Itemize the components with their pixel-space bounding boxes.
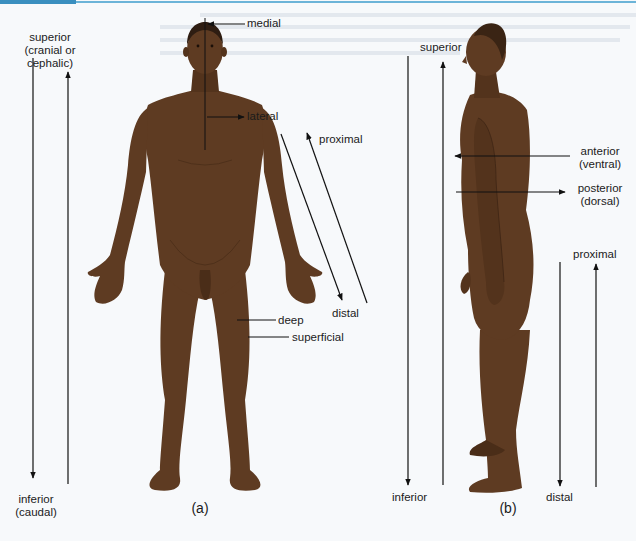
label-distal-b: distal (546, 491, 573, 504)
label-inferior-b: inferior (392, 491, 427, 504)
label-distal-a: distal (332, 307, 359, 320)
label-proximal-a: proximal (319, 133, 362, 146)
label-superior-a: superior (cranial or cephalic) (24, 31, 75, 70)
figure-b-lateral-body (460, 23, 533, 493)
label-posterior: posterior (dorsal) (578, 182, 623, 208)
caption-figure-a: (a) (191, 500, 208, 516)
label-proximal-b: proximal (573, 248, 616, 261)
label-medial: medial (247, 17, 281, 30)
label-lateral: lateral (247, 110, 278, 123)
label-inferior-a: inferior (caudal) (15, 493, 57, 519)
directional-terms-diagram (0, 0, 636, 541)
label-superior-b: superior (420, 41, 462, 54)
proximal-arrow-a (307, 133, 367, 303)
caption-figure-b: (b) (499, 500, 516, 516)
label-superficial: superficial (292, 331, 344, 344)
label-deep: deep (278, 314, 304, 327)
label-anterior: anterior (ventral) (579, 145, 621, 171)
